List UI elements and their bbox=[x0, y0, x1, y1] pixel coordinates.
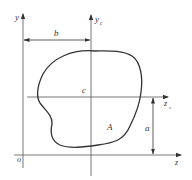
area-outline bbox=[38, 51, 142, 148]
y-axis: y bbox=[14, 12, 23, 168]
z-axis: z bbox=[14, 155, 181, 167]
dimension-a: a bbox=[145, 98, 153, 154]
dimension-b-label: b bbox=[54, 28, 59, 38]
yc-axis-label: y bbox=[94, 14, 99, 24]
yc-axis: y c bbox=[91, 14, 103, 176]
centroid-label: c bbox=[82, 85, 86, 95]
zc-axis-subscript: c bbox=[169, 105, 172, 110]
zc-axis-label: z bbox=[163, 99, 168, 108]
dimension-b: b bbox=[24, 28, 90, 40]
zc-axis: z c bbox=[27, 97, 172, 110]
area-label: A bbox=[106, 122, 113, 132]
yc-axis-subscript: c bbox=[100, 20, 103, 26]
centroid-diagram: y y c z z c b a o c A bbox=[0, 0, 192, 180]
dimension-a-label: a bbox=[145, 123, 150, 133]
z-axis-label: z bbox=[174, 158, 179, 167]
y-axis-label: y bbox=[14, 12, 19, 22]
origin-label: o bbox=[17, 155, 21, 164]
